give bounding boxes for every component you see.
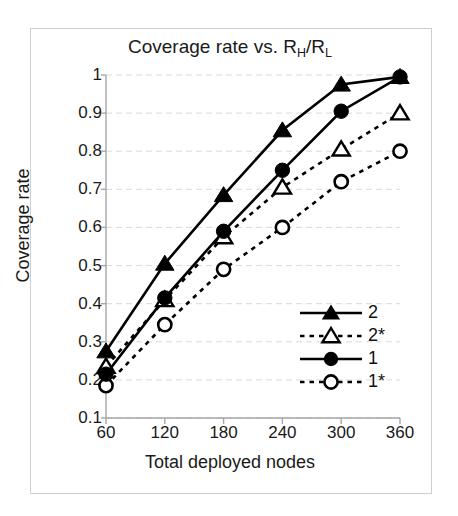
legend-marker-1star xyxy=(324,375,337,388)
legend-marker-2star xyxy=(322,328,339,342)
data-point-1star xyxy=(217,263,230,276)
data-point-1star xyxy=(335,175,348,188)
legend-label-2: 2 xyxy=(368,302,378,323)
data-point-1 xyxy=(334,104,348,118)
series-line-1 xyxy=(106,77,400,374)
plot-area xyxy=(0,0,458,516)
data-point-2star xyxy=(333,141,350,155)
data-point-1 xyxy=(158,291,172,305)
series-line-2 xyxy=(106,77,400,351)
data-point-1 xyxy=(99,367,113,381)
data-point-2star xyxy=(274,179,291,193)
legend-label-2star: 2* xyxy=(368,325,385,346)
data-point-1star xyxy=(158,318,171,331)
legend-marker-1 xyxy=(324,352,338,366)
data-point-1star xyxy=(276,221,289,234)
data-point-1 xyxy=(275,163,289,177)
data-point-1 xyxy=(393,70,407,84)
legend-label-1: 1 xyxy=(368,348,378,369)
series-line-1star xyxy=(106,151,400,385)
data-point-2 xyxy=(97,343,115,358)
data-point-1star xyxy=(393,145,406,158)
legend-label-1star: 1* xyxy=(368,371,385,392)
data-point-1 xyxy=(216,224,230,238)
chart-figure: Coverage rate vs. RH/RL Coverage rate To… xyxy=(0,0,458,516)
data-point-2star xyxy=(391,105,408,119)
